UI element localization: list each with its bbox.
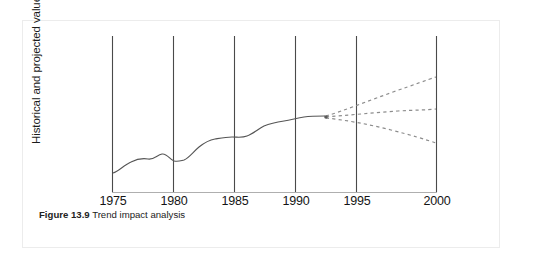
- y-axis-title: Historical and projected value: [30, 0, 42, 150]
- x-tick-label-2000: 2000: [411, 194, 463, 208]
- gridlines: [113, 36, 437, 192]
- figure-caption-text: Trend impact analysis: [92, 209, 185, 220]
- projection-lower-bound: [326, 118, 436, 143]
- projection-baseline: [326, 109, 436, 117]
- x-tick-label-1980: 1980: [148, 194, 200, 208]
- historical-trend-line: [113, 116, 325, 173]
- x-tick-label-1975: 1975: [87, 194, 139, 208]
- x-tick-label-1985: 1985: [209, 194, 261, 208]
- projection-fan: [326, 77, 436, 143]
- x-tick-label-1995: 1995: [331, 194, 383, 208]
- branch-point-marker: [324, 115, 328, 119]
- figure-caption: Figure 13.9 Trend impact analysis: [39, 209, 185, 220]
- chart-plot-area: Historical and projected value 1975 1980…: [23, 21, 501, 216]
- trend-impact-analysis-chart: [23, 21, 501, 216]
- projection-upper-bound: [326, 77, 436, 116]
- figure-card: Historical and projected value 1975 1980…: [22, 20, 500, 248]
- figure-caption-number: Figure 13.9: [39, 209, 90, 220]
- x-tick-label-1990: 1990: [270, 194, 322, 208]
